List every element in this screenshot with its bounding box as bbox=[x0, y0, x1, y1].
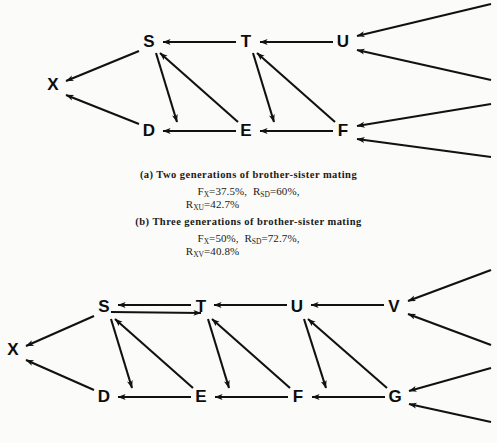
formula-a-rxu: RXU=42.7% bbox=[186, 198, 240, 210]
caption-a-text: (a) Two generations of brother-sister ma… bbox=[140, 169, 357, 180]
formula-a-rxu-val: =42.7% bbox=[204, 198, 239, 210]
formula-b-rxv-val: =40.8% bbox=[204, 245, 239, 257]
formula-b-rxv-sub: XV bbox=[193, 250, 204, 259]
figure-page: X S T U D E F X S T U V D E F G (a) Two … bbox=[0, 0, 497, 443]
caption-b-text: (b) Three generations of brother-sister … bbox=[135, 216, 361, 227]
caption-b: (b) Three generations of brother-sister … bbox=[0, 211, 497, 229]
panel-a-arrows bbox=[66, 4, 491, 157]
formula-a-line-2: RXU=42.7% bbox=[0, 194, 497, 212]
formula-b-rxv: RXV=40.8% bbox=[186, 245, 240, 257]
panel-b-arrows bbox=[26, 270, 491, 422]
caption-a: (a) Two generations of brother-sister ma… bbox=[0, 164, 497, 182]
formula-b-line-2: RXV=40.8% bbox=[0, 241, 497, 259]
